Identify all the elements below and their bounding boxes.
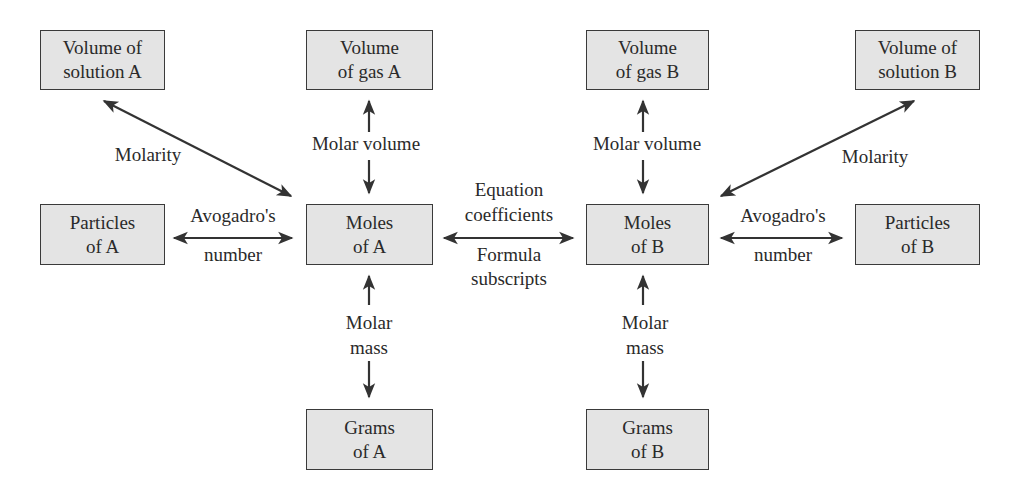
node-label: of B [901, 235, 934, 259]
node-label: Particles [70, 211, 135, 235]
node-label: Moles [346, 211, 394, 235]
node-label: of A [86, 235, 119, 259]
node-label: Volume [618, 36, 677, 60]
node-moles-b: Moles of B [586, 204, 709, 265]
node-label: Volume of [63, 36, 142, 60]
label-molar-mass-a-line1: Molar [346, 311, 392, 335]
node-volume-solution-b: Volume of solution B [855, 30, 980, 90]
label-molarity-a: Molarity [115, 143, 182, 167]
node-particles-a: Particles of A [40, 204, 165, 265]
stoichiometry-diagram: Volume of solution A Volume of gas A Par… [0, 0, 1015, 496]
node-label: Grams [344, 416, 395, 440]
node-volume-gas-b: Volume of gas B [586, 30, 709, 90]
node-label: of B [631, 440, 664, 464]
node-label: solution A [63, 60, 142, 84]
node-label: Volume [340, 36, 399, 60]
node-grams-b: Grams of B [586, 409, 709, 470]
label-formula-line2: subscripts [471, 267, 547, 291]
node-label: solution B [878, 60, 957, 84]
node-volume-gas-a: Volume of gas A [306, 30, 433, 90]
label-avogadro-b-line2: number [754, 243, 812, 267]
label-equation-line2: coefficients [465, 203, 553, 227]
node-moles-a: Moles of A [306, 204, 433, 265]
node-label: of A [353, 235, 386, 259]
node-grams-a: Grams of A [306, 409, 433, 470]
node-label: of gas B [616, 60, 679, 84]
node-label: of A [353, 440, 386, 464]
node-label: of gas A [338, 60, 401, 84]
label-equation-line1: Equation [475, 178, 544, 202]
node-label: Particles [885, 211, 950, 235]
label-molar-mass-a-line2: mass [350, 336, 388, 360]
label-molar-volume-b: Molar volume [593, 132, 701, 156]
label-molar-mass-b-line1: Molar [622, 311, 668, 335]
label-molarity-b: Molarity [842, 145, 909, 169]
label-avogadro-a-line2: number [204, 243, 262, 267]
node-volume-solution-a: Volume of solution A [40, 30, 165, 90]
node-particles-b: Particles of B [855, 204, 980, 265]
label-molar-mass-b-line2: mass [626, 336, 664, 360]
label-molar-volume-a: Molar volume [312, 132, 420, 156]
node-label: Volume of [878, 36, 957, 60]
label-avogadro-b-line1: Avogadro's [740, 204, 825, 228]
label-avogadro-a-line1: Avogadro's [190, 204, 275, 228]
label-formula-line1: Formula [477, 243, 541, 267]
node-label: Grams [622, 416, 673, 440]
node-label: of B [631, 235, 664, 259]
node-label: Moles [624, 211, 672, 235]
